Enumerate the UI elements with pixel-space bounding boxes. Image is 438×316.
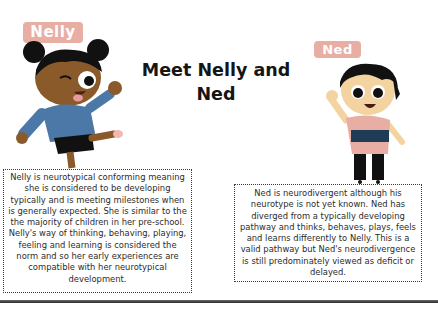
ned-description: Ned is neurodivergent although his neuro… xyxy=(240,188,416,277)
ned-illustration xyxy=(326,58,408,184)
page-title: Meet Nelly and Ned xyxy=(130,58,302,106)
bottom-divider xyxy=(0,300,438,303)
ned-description-box: Ned is neurodivergent although his neuro… xyxy=(234,184,422,282)
nelly-description-box: Nelly is neurotypical conforming meaning… xyxy=(3,169,192,293)
nelly-illustration xyxy=(14,38,124,170)
nelly-description: Nelly is neurotypical conforming meaning… xyxy=(8,172,187,284)
ned-name-tag: Ned xyxy=(314,41,361,58)
